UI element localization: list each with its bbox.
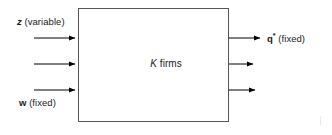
output-qualifier-fixed: (fixed) <box>276 33 305 44</box>
scan-artifact <box>320 116 321 125</box>
firms-count-symbol: K <box>150 58 157 69</box>
input-qualifier-variable: (variable) <box>22 16 65 27</box>
output-label-q: q* (fixed) <box>267 30 305 45</box>
firms-box-label: K firms <box>0 58 332 70</box>
firms-word: firms <box>157 58 182 69</box>
input-label-z: z (variable) <box>17 16 65 28</box>
input-qualifier-fixed: (fixed) <box>26 97 55 108</box>
input-label-w: w (fixed) <box>19 97 56 109</box>
diagram-canvas: z (variable) w (fixed) q* (fixed) K firm… <box>0 0 332 135</box>
